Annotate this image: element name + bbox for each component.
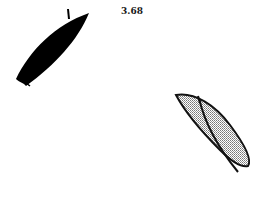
solid-leaf-shape: [16, 9, 89, 86]
stippled-leaf-shape: [176, 95, 249, 172]
figure-canvas: [0, 0, 266, 210]
